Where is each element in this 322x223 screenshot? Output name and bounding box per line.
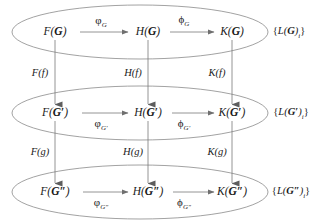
- set-label-set-label-G: {L(G)i}: [273, 26, 305, 39]
- node-node-H-Gdoubleprime: H(G″): [133, 186, 164, 198]
- edge-label-vedge-K-g: K(g): [207, 147, 226, 158]
- edge-label-edge-Phi-G: ϕG: [179, 14, 190, 28]
- edge-label-edge-Phi-Gprime: ϕG′: [178, 118, 190, 132]
- edge-label-vedge-K-f: K(f): [209, 68, 226, 79]
- edge-label-edge-phi-Gprime: φG′: [95, 118, 108, 132]
- node-node-F-G: F(G): [43, 26, 66, 38]
- edge-label-vedge-H-f: H(f): [124, 68, 142, 79]
- edge-label-edge-Phi-Gdoubleprime: ϕG″: [177, 197, 191, 211]
- node-node-K-G: K(G): [220, 26, 244, 38]
- set-label-set-label-Gprime: {L(G′)i}: [273, 107, 308, 120]
- commutative-diagram: φGϕGF(G)H(G)K(G){L(G)i}φG′ϕG′F(G′)H(G′)K…: [0, 0, 322, 223]
- node-node-F-Gprime: F(G′): [42, 107, 68, 119]
- edge-label-edge-phi-G: φG: [95, 15, 106, 29]
- node-node-F-Gdoubleprime: F(G″): [40, 186, 69, 198]
- edge-label-edge-phi-Gdoubleprime: φG″: [94, 197, 108, 211]
- edge-label-vedge-F-g: F(g): [31, 147, 50, 158]
- node-node-H-G: H(G): [136, 26, 160, 38]
- set-label-set-label-Gdoubleprime: {L(G″)i}: [272, 186, 310, 199]
- node-node-H-Gprime: H(G′): [134, 107, 162, 119]
- edge-label-vedge-H-g: H(g): [123, 147, 143, 158]
- node-node-K-Gdoubleprime: K(G″): [217, 186, 247, 198]
- edge-label-vedge-F-f: F(f): [32, 68, 48, 79]
- node-node-K-Gprime: K(G′): [219, 107, 246, 119]
